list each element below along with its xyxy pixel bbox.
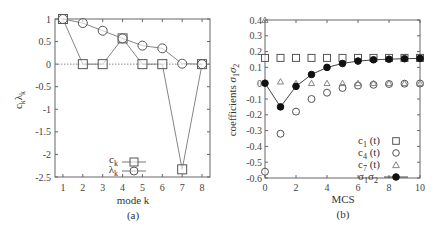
series-line <box>265 58 420 107</box>
series-triangle <box>262 17 423 86</box>
circle-marker <box>370 81 377 88</box>
circle-marker <box>178 59 187 68</box>
x-axis-label: mode k <box>117 194 150 206</box>
square-marker <box>98 60 107 69</box>
x-tick-label: 3 <box>100 182 105 193</box>
circle-marker <box>293 108 300 115</box>
x-tick-label: 5 <box>140 182 145 193</box>
x-tick-label: 1 <box>60 182 65 193</box>
y-tick-label: -2.5 <box>35 172 51 183</box>
plot-frame <box>265 20 420 178</box>
triangle-marker <box>293 80 299 85</box>
chart-panel-a: 10.50-0.5-1-1.5-2-2.512345678ckλkmode k(… <box>0 0 220 231</box>
x-tick-label: 2 <box>294 182 299 193</box>
triangle-marker <box>278 79 284 84</box>
circle-marker <box>138 41 147 50</box>
legend-label: σ1σ2 <box>358 170 378 185</box>
y-tick-label: 0.1 <box>250 62 263 73</box>
y-tick-label: 0.2 <box>250 46 263 57</box>
square-marker <box>78 60 87 69</box>
y-axis-label: ckλk <box>12 91 27 109</box>
circle-marker <box>339 84 346 91</box>
y-tick-label: 0.5 <box>39 36 52 47</box>
series-circle <box>262 80 424 175</box>
x-axis-label: MCS <box>331 193 354 205</box>
y-tick-label: 0.4 <box>250 15 263 26</box>
legend: c1 (t)c4 (t)c7 (t)σ1σ2 <box>358 134 408 185</box>
circle-marker <box>198 60 207 69</box>
circle-marker <box>78 19 87 28</box>
circle-marker <box>393 150 400 157</box>
circle-marker <box>308 96 315 103</box>
circle-marker <box>262 168 269 175</box>
circle-marker <box>324 89 331 96</box>
x-tick-label: 6 <box>160 182 165 193</box>
circle-marker <box>277 130 284 137</box>
square-marker <box>277 54 284 61</box>
x-tick-label: 7 <box>180 182 185 193</box>
filled-circle-marker <box>386 56 393 63</box>
legend-label: c4 (t) <box>358 146 380 161</box>
triangle-marker <box>393 162 400 168</box>
legend-label: c7 (t) <box>358 158 380 173</box>
circle-marker <box>98 26 107 35</box>
triangle-marker <box>417 80 423 85</box>
triangle-marker <box>340 80 346 85</box>
square-marker <box>417 54 424 61</box>
square-marker <box>308 54 315 61</box>
circle-marker <box>401 80 408 87</box>
square-marker <box>370 54 377 61</box>
square-marker <box>158 60 167 69</box>
filled-circle-marker <box>393 174 400 181</box>
circle-marker <box>58 15 67 24</box>
x-tick-label: 10 <box>415 182 425 193</box>
y-tick-label: -0.5 <box>246 157 262 168</box>
series-square <box>58 15 206 174</box>
triangle-marker <box>402 80 408 85</box>
triangle-marker <box>355 80 361 85</box>
series-square <box>262 54 424 61</box>
y-tick-label: -0.1 <box>246 94 262 105</box>
filled-circle-marker <box>293 83 300 90</box>
y-tick-label: 0 <box>46 59 51 70</box>
y-tick-label: -1.5 <box>35 126 51 137</box>
filled-circle-marker <box>277 104 284 111</box>
x-tick-label: 4 <box>120 182 125 193</box>
y-tick-label: -0.2 <box>246 109 262 120</box>
triangle-marker <box>262 17 268 22</box>
square-marker <box>178 165 187 174</box>
y-tick-label: 0.3 <box>250 30 263 41</box>
triangle-marker <box>309 80 315 85</box>
square-marker <box>293 54 300 61</box>
square-marker <box>324 54 331 61</box>
x-tick-label: 6 <box>356 182 361 193</box>
triangle-marker <box>371 80 377 85</box>
panel-caption: (b) <box>337 208 350 221</box>
y-tick-label: -0.4 <box>246 141 262 152</box>
square-marker <box>386 54 393 61</box>
y-tick-label: -0.3 <box>246 125 262 136</box>
x-tick-label: 8 <box>200 182 205 193</box>
filled-circle-marker <box>324 64 331 71</box>
legend: ckλk <box>109 153 146 178</box>
filled-circle-marker <box>339 60 346 67</box>
x-tick-label: 8 <box>387 182 392 193</box>
square-marker <box>393 138 400 145</box>
filled-circle-marker <box>308 71 315 78</box>
circle-marker <box>158 44 167 53</box>
circle-marker <box>417 80 424 87</box>
filled-circle-marker <box>370 57 377 64</box>
triangle-marker <box>386 80 392 85</box>
square-marker <box>339 54 346 61</box>
square-marker <box>401 54 408 61</box>
x-tick-label: 0 <box>263 182 268 193</box>
x-tick-label: 2 <box>80 182 85 193</box>
series-filled-circle <box>262 55 424 110</box>
panel-caption: (a) <box>127 209 140 222</box>
filled-circle-marker <box>417 55 424 62</box>
x-tick-label: 4 <box>325 182 330 193</box>
y-tick-label: -0.5 <box>35 81 51 92</box>
square-marker <box>138 60 147 69</box>
plot-frame <box>55 19 210 177</box>
square-marker <box>262 54 269 61</box>
